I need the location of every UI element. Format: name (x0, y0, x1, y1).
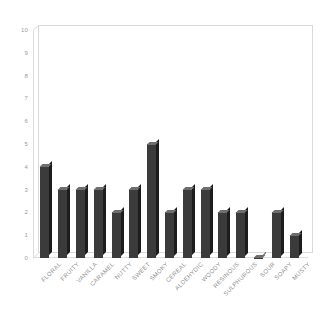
y-axis-tick-label: 0 (2, 255, 28, 261)
y-axis-tick-label: 9 (2, 50, 28, 56)
bar-front-face (147, 144, 156, 258)
bar[interactable] (58, 190, 67, 258)
bar[interactable] (183, 190, 192, 258)
bar-front-face (76, 190, 85, 258)
bar-top-face (112, 210, 123, 213)
bar[interactable] (112, 212, 121, 258)
bar-side-face (121, 207, 124, 255)
bar[interactable] (254, 258, 263, 259)
bar-front-face (290, 235, 299, 258)
bar-chart: 109876543210 FLORALFRUITYVANILLACARAMELN… (0, 0, 324, 323)
bar-front-face (218, 212, 227, 258)
y-axis-tick-label: 6 (2, 118, 28, 124)
bar-side-face (156, 139, 159, 256)
bar-front-face (165, 212, 174, 258)
x-axis-labels: FLORALFRUITYVANILLACARAMELNUTTYSWEETSMOK… (33, 261, 323, 321)
bar-side-face (85, 185, 88, 256)
y-axis-tick-label: 3 (2, 187, 28, 193)
bar-top-face (254, 255, 265, 258)
bar[interactable] (40, 167, 49, 258)
y-axis-tick-label: 5 (2, 141, 28, 147)
bar-side-face (192, 185, 195, 256)
bar[interactable] (94, 190, 103, 258)
bar[interactable] (236, 212, 245, 258)
bar-side-face (210, 185, 213, 256)
bar[interactable] (129, 190, 138, 258)
bar-front-face (129, 190, 138, 258)
bars-layer (33, 30, 308, 258)
bar-front-face (254, 258, 263, 259)
bar[interactable] (218, 212, 227, 258)
bar-front-face (272, 212, 281, 258)
bar-front-face (112, 212, 121, 258)
bar-front-face (236, 212, 245, 258)
y-axis-tick-label: 4 (2, 164, 28, 170)
bar-side-face (49, 162, 52, 256)
bar-side-face (245, 207, 248, 255)
bar-side-face (227, 207, 230, 255)
bar-front-face (183, 190, 192, 258)
bar-front-face (94, 190, 103, 258)
bar-front-face (58, 190, 67, 258)
y-axis-tick-label: 10 (2, 27, 28, 33)
bar[interactable] (290, 235, 299, 258)
y-axis-tick-label: 2 (2, 209, 28, 215)
bar[interactable] (76, 190, 85, 258)
bar-side-face (67, 185, 70, 256)
bar[interactable] (201, 190, 210, 258)
bar-side-face (174, 207, 177, 255)
y-axis-tick-label: 1 (2, 232, 28, 238)
y-axis-tick-label: 7 (2, 95, 28, 101)
bar-side-face (103, 185, 106, 256)
bar-front-face (40, 167, 49, 258)
bar-front-face (201, 190, 210, 258)
plot-area (33, 25, 313, 260)
bar[interactable] (272, 212, 281, 258)
bar-side-face (281, 207, 284, 255)
bar-side-face (138, 185, 141, 256)
bar[interactable] (165, 212, 174, 258)
bar[interactable] (147, 144, 156, 258)
y-axis-tick-label: 8 (2, 73, 28, 79)
bar-top-face (290, 233, 301, 236)
